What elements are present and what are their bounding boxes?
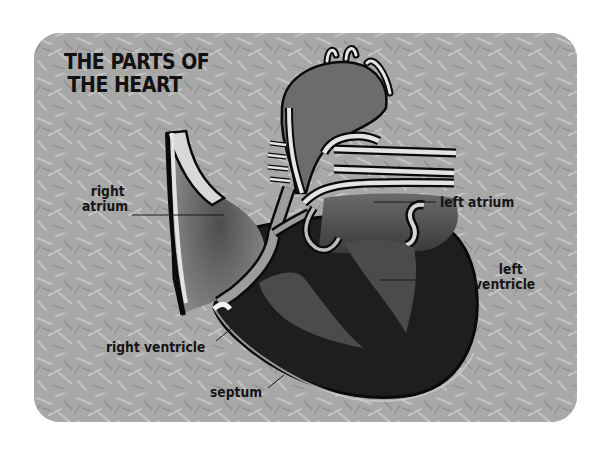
label-left-ventricle: left ventricle — [474, 262, 535, 292]
label-left-ventricle-line1: left — [474, 262, 535, 277]
label-right-atrium: right atrium — [82, 184, 128, 214]
label-right-ventricle: right ventricle — [106, 340, 205, 355]
label-left-ventricle-line2: ventricle — [474, 277, 535, 292]
title-line-1: THE PARTS OF — [64, 51, 209, 74]
label-septum: septum — [210, 385, 262, 400]
leader-septum — [268, 375, 284, 388]
diagram-title: THE PARTS OF THE HEART — [64, 51, 209, 97]
label-right-atrium-line1: right — [82, 184, 128, 199]
label-left-atrium: left atrium — [440, 195, 514, 210]
title-line-2: THE HEART — [64, 74, 209, 97]
leader-right-ventricle — [216, 328, 232, 341]
label-right-atrium-line2: atrium — [82, 199, 128, 214]
diagram-card: THE PARTS OF THE HEART right atrium left… — [34, 33, 577, 422]
